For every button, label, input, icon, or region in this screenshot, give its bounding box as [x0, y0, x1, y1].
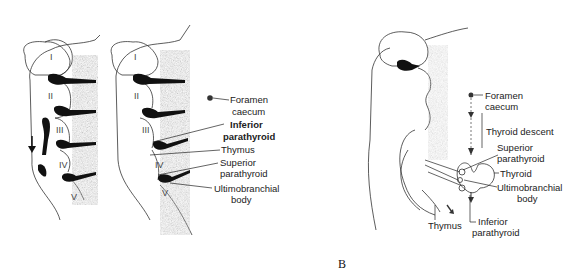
label-foramen-caecum-line1: Foramen — [485, 90, 523, 101]
label-superior-parathyroid-line1: Superior — [220, 157, 256, 168]
descent-arrow-icon — [468, 148, 474, 155]
label-ultimobranchial-line2: body — [517, 193, 538, 204]
embryology-figure: I II III IV V I II III IV V Foramen caec… — [0, 0, 574, 272]
label-thyroid-descent: Thyroid descent — [486, 126, 554, 137]
arch-label-I: I — [134, 52, 137, 62]
label-foramen-caecum-line1: Foramen — [230, 94, 268, 105]
pharyngeal-arches-diagram-2: I II III IV V Foramen caecum Inferior pa… — [111, 25, 279, 235]
label-superior-parathyroid-line2: parathyroid — [220, 168, 268, 179]
label-inferior-parathyroid-line1: Inferior — [478, 216, 508, 227]
panel-label-B: B — [338, 257, 346, 271]
descent-arrow-icon — [468, 112, 474, 118]
label-thymus: Thymus — [221, 144, 255, 155]
descent-arrow-icon — [468, 197, 474, 203]
label-ultimobranchial-line2: body — [231, 194, 252, 205]
arch-label-V: V — [162, 188, 168, 198]
pharyngeal-arches-diagram-1: I II III IV V — [24, 35, 100, 220]
arch-label-III: III — [142, 125, 150, 135]
arch-label-II: II — [134, 91, 139, 101]
label-superior-parathyroid-line2: parathyroid — [497, 153, 545, 164]
label-superior-parathyroid-line1: Superior — [497, 142, 533, 153]
arch-label-IV: IV — [155, 160, 164, 170]
thyroid-descent-diagram: Foramen caecum Thyroid descent Superior … — [368, 28, 562, 238]
arch-label-II: II — [48, 91, 53, 101]
arrow-head-icon — [28, 146, 36, 153]
label-inferior-parathyroid-line2: parathyroid — [472, 227, 520, 238]
label-thymus: Thymus — [428, 220, 462, 231]
arch-label-I: I — [50, 52, 53, 62]
arch-label-V: V — [71, 192, 77, 202]
label-foramen-caecum-line2: caecum — [232, 106, 265, 117]
label-foramen-caecum-line2: caecum — [485, 101, 518, 112]
label-inferior-parathyroid-line1: Inferior — [230, 119, 263, 130]
inferior-parathyroid-circle — [459, 185, 465, 191]
label-thyroid: Thyroid — [500, 168, 532, 179]
foramen-caecum-dot — [469, 93, 474, 98]
arch-label-IV: IV — [59, 160, 68, 170]
arch-label-III: III — [56, 125, 64, 135]
label-ultimobranchial-line1: Ultimobranchial — [497, 182, 562, 193]
label-inferior-parathyroid-line2: parathyroid — [223, 131, 275, 142]
foramen-caecum-dot — [207, 95, 213, 101]
label-ultimobranchial-line1: Ultimobranchial — [214, 183, 279, 194]
